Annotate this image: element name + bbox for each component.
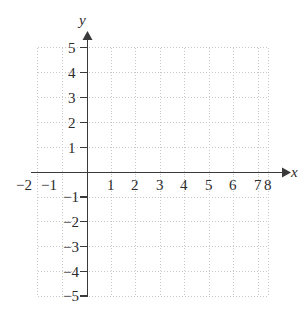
x-tick-label-7: 7 [254, 178, 262, 193]
y-tick-label--4: −4 [63, 265, 79, 280]
y-tick-label-3: 3 [68, 91, 76, 106]
x-axis-label: x [291, 165, 298, 180]
y-tick-label-4: 4 [68, 66, 76, 81]
x-tick-label-4: 4 [180, 178, 188, 193]
x-tick-label-8: 8 [264, 178, 272, 193]
y-tick-label--5: −5 [63, 289, 79, 304]
y-tick-label--1: −1 [63, 190, 79, 205]
y-axis-label: y [79, 13, 86, 28]
y-axis-line [83, 31, 93, 296]
y-tick-label-1: 1 [68, 141, 76, 156]
x-tick-label--2: −2 [16, 178, 32, 193]
y-tick-label-2: 2 [68, 116, 76, 131]
x-tick-label-3: 3 [156, 178, 164, 193]
x-axis-line [31, 168, 291, 178]
x-tick-label--1: −1 [41, 178, 57, 193]
y-tick-label--2: −2 [63, 215, 79, 230]
y-tick-label-5: 5 [68, 41, 76, 56]
y-tick-label--3: −3 [63, 240, 79, 255]
x-tick-label-2: 2 [131, 178, 139, 193]
x-tick-label-1: 1 [107, 178, 115, 193]
x-tick-label-6: 6 [229, 178, 237, 193]
graph-canvas [0, 0, 307, 313]
coordinate-grid-figure: −2 −1 1 2 3 4 5 6 7 8 5 4 3 2 1 −1 −2 −3… [0, 0, 307, 313]
x-tick-label-5: 5 [205, 178, 213, 193]
